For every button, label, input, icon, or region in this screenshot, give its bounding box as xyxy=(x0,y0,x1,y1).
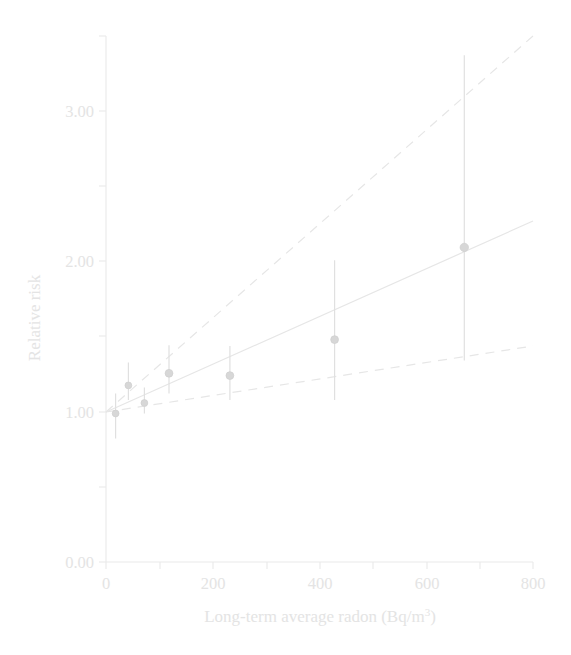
data-marker-7 xyxy=(460,243,468,251)
chart-canvas: 0.00 1.00 2.00 3.00 0 200 400 600 800 xyxy=(0,0,571,655)
y-tick-label-6: 3.00 xyxy=(65,102,94,121)
data-point-2 xyxy=(125,362,132,400)
y-axis-title: Relative risk xyxy=(25,274,44,361)
data-point-4 xyxy=(165,345,173,393)
y-axis-tick-labels: 0.00 1.00 2.00 3.00 xyxy=(65,102,94,572)
x-tick-label-200: 200 xyxy=(201,574,226,593)
y-tick-label-2: 1.00 xyxy=(65,403,94,422)
y-axis-tick-marks xyxy=(99,36,106,562)
data-point-6 xyxy=(331,260,339,400)
x-tick-label-400: 400 xyxy=(308,574,333,593)
x-axis-tick-marks xyxy=(106,562,533,569)
data-point-group xyxy=(112,55,468,438)
x-axis-title-main: Long-term average radon (Bq/m xyxy=(204,607,424,626)
data-point-3 xyxy=(141,387,148,413)
fitted-dose-response-line xyxy=(106,221,533,412)
x-tick-label-0: 0 xyxy=(102,574,110,593)
data-marker-3 xyxy=(141,400,148,407)
data-marker-2 xyxy=(125,382,132,389)
data-marker-6 xyxy=(331,336,339,344)
x-tick-label-800: 800 xyxy=(521,574,546,593)
axis-spines xyxy=(106,36,533,562)
data-point-1 xyxy=(112,393,119,438)
data-marker-1 xyxy=(112,410,119,417)
data-point-7 xyxy=(460,55,468,360)
x-axis-tick-labels: 0 200 400 600 800 xyxy=(102,574,546,593)
y-tick-label-0: 0.00 xyxy=(65,553,94,572)
x-axis-title: Long-term average radon (Bq/m3) xyxy=(204,606,436,626)
upper-confidence-limit-line xyxy=(106,36,533,412)
data-marker-4 xyxy=(165,369,173,377)
x-tick-label-600: 600 xyxy=(415,574,440,593)
data-marker-5 xyxy=(226,372,234,380)
y-tick-label-4: 2.00 xyxy=(65,252,94,271)
radon-relative-risk-figure: 0.00 1.00 2.00 3.00 0 200 400 600 800 xyxy=(0,0,571,655)
x-axis-title-tail: ) xyxy=(430,607,436,626)
